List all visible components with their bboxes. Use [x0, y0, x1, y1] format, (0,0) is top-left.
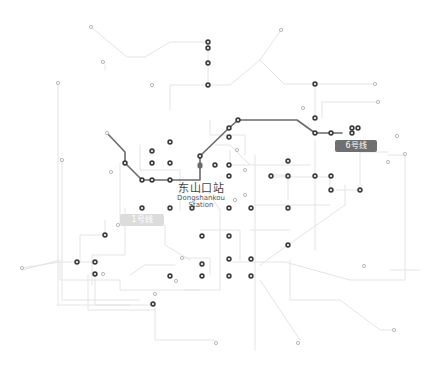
line-badge-1-label: 1号线	[131, 215, 152, 224]
line-badge-6[interactable]: 6号线	[335, 140, 377, 152]
line-badge-6-label: 6号线	[345, 141, 366, 150]
highlighted-route	[107, 120, 342, 180]
line-badge-1[interactable]: 1号线	[120, 214, 164, 226]
station-name-zh: 东山口站	[168, 183, 234, 195]
station-name-en-2: Station	[168, 202, 234, 209]
metro-map: 东山口站 Dongshankou Station 1号线 6号线	[0, 0, 430, 372]
station-label-dongshankou[interactable]: 东山口站 Dongshankou Station	[168, 183, 234, 209]
